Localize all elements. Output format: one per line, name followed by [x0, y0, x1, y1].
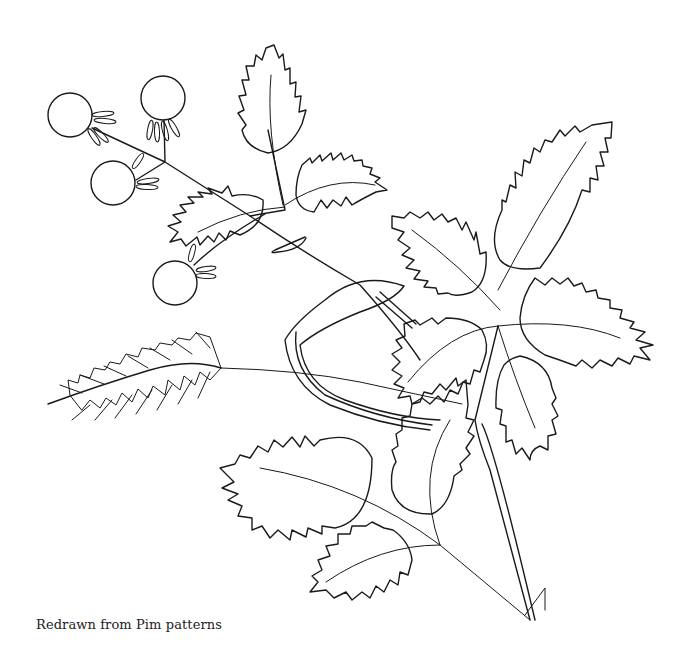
leaf-bottom-middle: [310, 522, 412, 600]
caption: Redrawn from Pim patterns: [36, 617, 222, 632]
branch-lower-vein: [440, 545, 530, 620]
hip-1: [48, 93, 92, 137]
leaflet-top-right: [296, 153, 387, 212]
stem-lower: [475, 326, 535, 620]
hip-3: [91, 161, 135, 205]
stipule: [272, 237, 306, 253]
hip-2: [141, 76, 185, 120]
leaf-upper-left: [392, 212, 486, 295]
rose-hips: [48, 76, 216, 305]
hip-stems: [92, 120, 265, 265]
leaf-bottom-right-center: [392, 378, 475, 514]
botanical-line-drawing: [0, 0, 691, 667]
leaf-lower-left: [392, 318, 487, 404]
leaf-right: [520, 278, 653, 368]
leaf-large-top: [494, 122, 612, 269]
leaf-bottom-left: [220, 436, 372, 540]
hip-4: [153, 261, 197, 305]
